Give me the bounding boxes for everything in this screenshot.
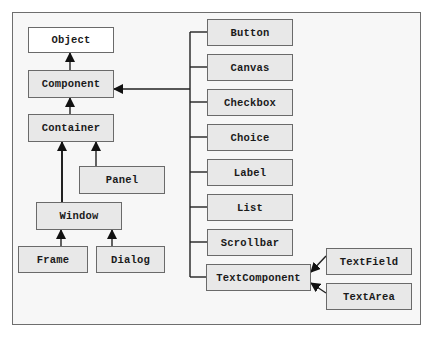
- class-window: Window: [36, 202, 122, 230]
- edge-textarea-textcomponent: [311, 283, 326, 293]
- class-textcomponent: TextComponent: [206, 264, 311, 291]
- class-textarea: TextArea: [326, 283, 412, 310]
- class-label: Label: [207, 159, 293, 186]
- class-component: Component: [28, 70, 114, 98]
- edge-textfield-textcomponent: [311, 256, 326, 272]
- class-panel: Panel: [79, 166, 165, 194]
- class-frame: Frame: [18, 246, 88, 273]
- class-list: List: [207, 194, 293, 221]
- class-textfield: TextField: [326, 248, 412, 275]
- class-button: Button: [207, 19, 293, 46]
- class-canvas: Canvas: [207, 54, 293, 81]
- class-container: Container: [28, 114, 114, 142]
- class-scrollbar: Scrollbar: [207, 229, 293, 256]
- class-object: Object: [28, 27, 114, 53]
- class-choice: Choice: [207, 124, 293, 151]
- class-checkbox: Checkbox: [207, 89, 293, 116]
- class-dialog: Dialog: [96, 246, 165, 273]
